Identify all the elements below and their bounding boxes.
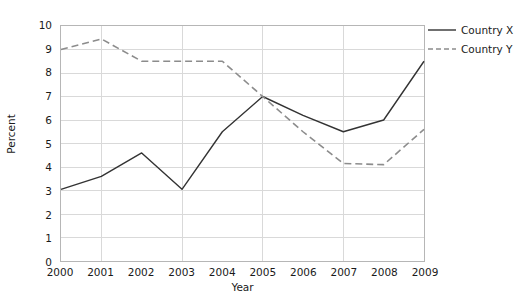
y-axis-tick-label: 4 (6, 162, 52, 173)
legend-line-swatch-icon (428, 44, 456, 54)
y-axis-tick-label: 5 (6, 138, 52, 149)
legend-label: Country X (456, 24, 513, 36)
x-axis-tick-label: 2007 (322, 266, 366, 278)
legend-item-0[interactable]: Country X (428, 21, 518, 38)
line-chart: Percent 012345678910 2000200120022003200… (0, 0, 518, 301)
x-axis-tick-label: 2009 (403, 266, 447, 278)
legend-label: Country Y (456, 43, 512, 55)
x-axis-tick-label: 2008 (362, 266, 406, 278)
legend-line-swatch-icon (428, 25, 456, 35)
x-axis-tick-label: 2001 (79, 266, 123, 278)
x-axis-tick-label: 2006 (281, 266, 325, 278)
y-axis-tick-label: 7 (6, 91, 52, 102)
y-axis-tick-label: 9 (6, 43, 52, 54)
x-axis-tick-label: 2000 (38, 266, 82, 278)
series-line-1 (61, 39, 424, 165)
y-axis-tick-label: 6 (6, 114, 52, 125)
x-axis-tick-labels: 2000200120022003200420052006200720082009 (60, 266, 425, 280)
y-axis-tick-label: 3 (6, 185, 52, 196)
x-axis-tick-label: 2002 (119, 266, 163, 278)
x-axis-tick-label: 2004 (200, 266, 244, 278)
y-axis-tick-label: 8 (6, 67, 52, 78)
y-axis-tick-labels: 012345678910 (0, 25, 52, 262)
x-axis-tick-label: 2005 (241, 266, 285, 278)
y-axis-tick-label: 1 (6, 233, 52, 244)
x-axis-title: Year (60, 281, 425, 293)
series-line-0 (61, 61, 424, 189)
legend: Country XCountry Y (428, 21, 518, 59)
y-axis-tick-label: 10 (6, 20, 52, 31)
x-axis-tick-label: 2003 (160, 266, 204, 278)
plot-area (60, 25, 425, 262)
y-axis-tick-label: 2 (6, 209, 52, 220)
series-layer (61, 26, 424, 261)
legend-item-1[interactable]: Country Y (428, 40, 518, 57)
